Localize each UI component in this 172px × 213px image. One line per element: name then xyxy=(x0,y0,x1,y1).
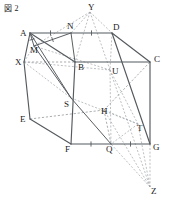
vertex-label-F: F xyxy=(65,144,70,154)
auxiliary-solid-lines-group xyxy=(30,33,111,144)
vertex-label-H: H xyxy=(101,106,108,116)
vertex-label-A: A xyxy=(20,28,27,38)
vertex-label-Y: Y xyxy=(88,2,95,12)
vertex-label-X: X xyxy=(15,57,22,67)
aux-line-XS xyxy=(24,62,71,98)
vertex-label-B: B xyxy=(78,62,84,72)
aux-line-YN xyxy=(71,12,90,33)
aux-line-NB xyxy=(71,33,75,62)
aux-line-DU xyxy=(110,33,112,70)
aux-line-YU xyxy=(90,12,110,70)
vertex-label-D: D xyxy=(113,22,120,32)
vertex-label-Q: Q xyxy=(106,144,113,154)
cube-edge-XE xyxy=(24,62,30,119)
aux-line-ZU xyxy=(110,70,150,187)
aux-line-YD xyxy=(90,12,112,33)
vertex-label-E: E xyxy=(20,114,26,124)
vertex-label-Z: Z xyxy=(151,186,157,196)
aux-line-ZQ xyxy=(111,144,150,187)
cube-edge-DC xyxy=(112,33,150,62)
aux-line-UQ xyxy=(110,70,111,144)
hidden-edge-EH xyxy=(30,110,104,119)
vertex-label-C: C xyxy=(154,54,160,64)
vertex-label-M: M xyxy=(30,45,38,55)
hidden-edge-HC xyxy=(104,62,150,110)
cube-edge-BF xyxy=(71,62,75,144)
geometry-figure: ANDCBXMYUSHTEFQGZ xyxy=(0,0,172,213)
vertex-label-T: T xyxy=(137,123,143,133)
aux-line-TH xyxy=(104,110,138,124)
cube-edge-EF xyxy=(30,119,71,144)
aux-line-SQ xyxy=(71,98,111,144)
cube-edge-DG xyxy=(112,33,150,144)
vertex-label-U: U xyxy=(112,66,119,76)
vertex-label-N: N xyxy=(67,21,74,31)
hidden-edges-group xyxy=(24,62,150,144)
cube-solid-edges-group xyxy=(24,33,150,144)
aux-line-MS xyxy=(34,46,71,98)
vertex-label-G: G xyxy=(153,142,160,152)
aux-line-YB xyxy=(75,12,90,62)
auxiliary-dashed-lines-group xyxy=(24,12,150,187)
aux-line-XU xyxy=(24,62,110,70)
vertex-label-S: S xyxy=(64,99,69,109)
